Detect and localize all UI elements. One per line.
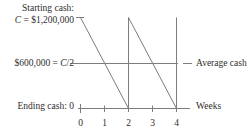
average-cash-value-label: $600,000 = C/2 [0,58,74,69]
cash-balance-sawtooth-figure: Starting cash: C = $1,200,000 $600,000 =… [0,0,252,136]
x-tick-label-4: 4 [170,118,184,129]
x-tick-label-2: 2 [122,118,136,129]
x-tick-label-1: 1 [98,118,112,129]
starting-cash-line2: C = $1,200,000 [0,15,74,26]
x-tick-label-3: 3 [146,118,160,129]
average-cash-amount: $600,000 = [15,58,61,68]
average-cash-right-label: Average cash [196,58,247,69]
ending-cash-label: Ending cash: 0 [0,101,74,112]
starting-cash-line1: Starting cash: [0,3,74,14]
average-cash-divisor: /2 [67,58,74,68]
starting-cash-amount: = $1,200,000 [21,15,74,25]
x-tick-label-0: 0 [74,118,88,129]
weeks-axis-label: Weeks [196,101,221,112]
starting-cash-label: Starting cash: C = $1,200,000 [0,3,74,26]
